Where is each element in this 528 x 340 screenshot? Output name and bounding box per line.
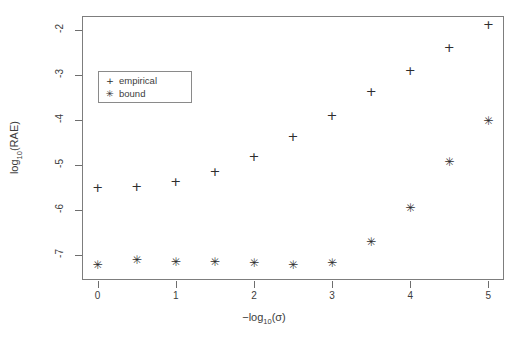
x-axis-tick-label: 0	[83, 290, 113, 301]
y-axis-tick-label: -5	[54, 152, 65, 174]
x-axis-title-prefix: −log	[242, 311, 263, 323]
x-axis-tick-mark	[488, 281, 489, 288]
legend-label-empirical: empirical	[117, 74, 157, 88]
legend-entry-bound: ✳bound	[103, 87, 145, 101]
plot-panel-border	[82, 16, 504, 280]
data-point-empirical: +	[130, 180, 143, 193]
legend-label-bound: bound	[117, 87, 145, 101]
data-point-empirical: +	[404, 64, 417, 77]
y-axis-tick-label: -4	[54, 107, 65, 129]
data-point-empirical: +	[91, 181, 104, 194]
data-point-bound: ✳	[169, 256, 182, 269]
x-axis-tick-label: 1	[161, 290, 191, 301]
data-point-empirical: +	[208, 165, 221, 178]
scatter-plot-figure: -2-3-4-5-6-7 012345 +++++++++++✳✳✳✳✳✳✳✳✳…	[0, 0, 528, 340]
data-point-bound: ✳	[208, 256, 221, 269]
x-axis-title-subscript: 10	[263, 317, 271, 326]
y-axis-tick-mark	[75, 120, 82, 121]
y-axis-tick-label: -3	[54, 62, 65, 84]
asterisk-marker-icon: ✳	[103, 87, 117, 101]
y-axis-title-subscript: 10	[15, 151, 24, 159]
x-axis-tick-mark	[98, 281, 99, 288]
x-axis-title-suffix: (σ)	[272, 311, 286, 323]
data-point-bound: ✳	[326, 257, 339, 270]
plus-marker-icon: +	[103, 74, 117, 88]
y-axis-title-suffix: (RAE)	[8, 121, 20, 151]
x-axis-tick-mark	[332, 281, 333, 288]
data-point-bound: ✳	[130, 254, 143, 267]
data-point-empirical: +	[443, 41, 456, 54]
y-axis-tick-mark	[75, 255, 82, 256]
x-axis-tick-label: 3	[317, 290, 347, 301]
data-point-empirical: +	[326, 109, 339, 122]
x-axis-tick-mark	[254, 281, 255, 288]
y-axis-tick-mark	[75, 165, 82, 166]
x-axis-tick-mark	[176, 281, 177, 288]
y-axis-tick-mark	[75, 30, 82, 31]
legend-entry-empirical: +empirical	[103, 74, 157, 88]
data-point-bound: ✳	[443, 156, 456, 169]
y-axis-title: log10(RAE)	[8, 98, 23, 198]
data-point-bound: ✳	[365, 236, 378, 249]
x-axis-tick-label: 4	[395, 290, 425, 301]
data-point-empirical: +	[365, 85, 378, 98]
data-point-empirical: +	[482, 18, 495, 31]
data-point-bound: ✳	[247, 257, 260, 270]
y-axis-title-prefix: log	[8, 159, 20, 174]
x-axis-tick-label: 5	[473, 290, 503, 301]
x-axis-tick-mark	[410, 281, 411, 288]
y-axis-tick-label: -2	[54, 17, 65, 39]
legend: +empirical ✳bound	[98, 71, 192, 103]
data-point-empirical: +	[247, 150, 260, 163]
data-point-bound: ✳	[482, 115, 495, 128]
data-point-bound: ✳	[287, 259, 300, 272]
y-axis-tick-label: -6	[54, 198, 65, 220]
x-axis-tick-label: 2	[239, 290, 269, 301]
y-axis-tick-mark	[75, 75, 82, 76]
y-axis-tick-label: -7	[54, 243, 65, 265]
x-axis-title: −log10(σ)	[0, 311, 528, 326]
data-point-bound: ✳	[404, 202, 417, 215]
data-point-empirical: +	[287, 130, 300, 143]
y-axis-tick-mark	[75, 210, 82, 211]
data-point-bound: ✳	[91, 259, 104, 272]
data-point-empirical: +	[169, 175, 182, 188]
